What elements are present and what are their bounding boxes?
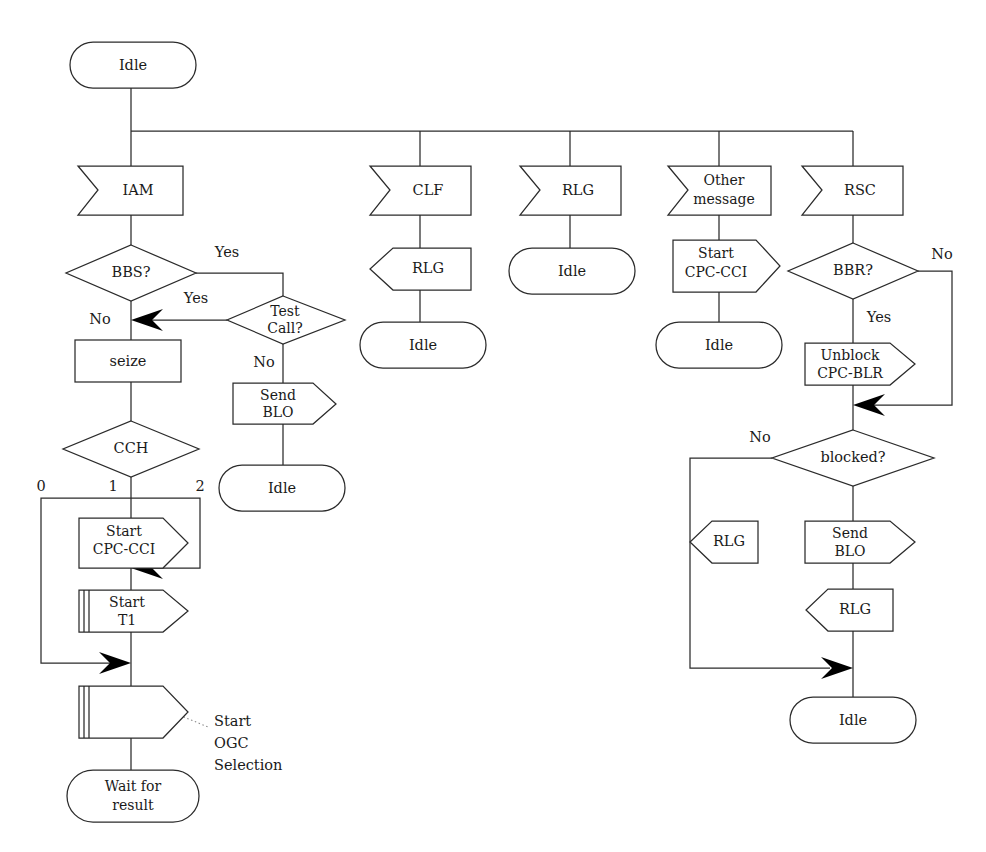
node-start-idle-label: Idle [119,57,147,73]
node-iam-label: IAM [122,182,153,198]
node-wait-line1: Wait for [105,778,162,794]
node-unblock-line1: Unblock [820,347,880,363]
node-iam[interactable]: IAM [78,166,183,215]
node-send-blo-left[interactable]: Send BLO [233,383,336,424]
node-idle-blo-left-label: Idle [268,480,296,496]
node-rlg-clf-label: RLG [412,260,444,276]
node-unblock-cpc-blr[interactable]: Unblock CPC-BLR [805,343,915,385]
flowchart-canvas: Idle IAM BBS? Yes No Test Call? Yes No s… [0,0,986,852]
edge-label-testcall-no: No [253,354,274,370]
node-blocked-label: blocked? [820,449,885,465]
node-clf[interactable]: CLF [370,166,471,215]
node-start-t1-line2: T1 [118,612,136,628]
node-rlg-notblocked-label: RLG [713,533,745,549]
node-bbr-decision[interactable]: BBR? [788,243,918,299]
edge-label-cch-2: 2 [195,478,204,494]
node-idle-clf[interactable]: Idle [360,322,486,368]
node-wait-for-result[interactable]: Wait for result [67,770,199,822]
node-rlg-blocked[interactable]: RLG [806,589,893,631]
annotation-ogc-note: Start OGC Selection [214,713,282,773]
node-start-cpc-cci-cch-line2: CPC-CCI [93,541,156,557]
edge-label-testcall-yes: Yes [183,290,208,306]
node-start-t1[interactable]: Start T1 [79,590,188,632]
node-idle-rlg[interactable]: Idle [509,248,635,294]
node-idle-clf-label: Idle [409,337,437,353]
node-ogc-selection[interactable] [79,686,188,738]
node-idle-rsc[interactable]: Idle [790,697,916,743]
node-rlg-not-blocked[interactable]: RLG [690,521,758,563]
node-other-message-line2: message [693,191,755,207]
node-start-cpc-cci-om-line1: Start [698,245,734,261]
node-rlg-clf[interactable]: RLG [370,248,471,290]
node-send-blo-left-line1: Send [260,387,296,403]
node-rsc[interactable]: RSC [802,166,903,215]
node-rlg-top[interactable]: RLG [520,166,621,215]
annotation-ogc-line2: OGC [214,735,249,751]
flowchart-svg: Idle IAM BBS? Yes No Test Call? Yes No s… [0,0,986,852]
edge-label-cch-1: 1 [108,478,117,494]
node-unblock-line2: CPC-BLR [817,365,883,381]
node-rsc-label: RSC [844,182,876,198]
edge-label-blocked-no: No [749,429,770,445]
node-send-blo-right[interactable]: Send BLO [805,521,915,563]
annotation-ogc-line3: Selection [214,757,282,773]
edge-label-bbs-yes: Yes [214,244,239,260]
node-rlg-top-label: RLG [562,182,594,198]
node-rlg-blocked-label: RLG [839,601,871,617]
node-bbs-decision[interactable]: BBS? [66,245,196,301]
node-send-blo-right-line1: Send [832,525,868,541]
node-other-message-line1: Other [703,172,744,188]
node-cch-label: CCH [114,440,149,456]
node-testcall-line1: Test [270,303,300,319]
node-idle-other-message[interactable]: Idle [656,322,782,368]
node-start-cpc-cci-om-line2: CPC-CCI [685,264,748,280]
node-send-blo-left-line2: BLO [262,404,293,420]
node-start-cpc-cci-cch-line1: Start [106,523,142,539]
node-blocked-decision[interactable]: blocked? [772,430,934,486]
node-seize-label: seize [110,353,147,369]
node-bbr-label: BBR? [833,262,873,278]
node-testcall-decision[interactable]: Test Call? [227,296,345,344]
edge-label-bbs-no: No [89,311,110,327]
edge-label-bbr-no: No [931,246,952,262]
annotation-ogc-line1: Start [214,713,251,729]
node-seize[interactable]: seize [75,340,181,382]
node-other-message[interactable]: Other message [668,166,771,215]
node-idle-blo-left[interactable]: Idle [219,465,345,511]
node-clf-label: CLF [413,182,444,198]
node-start-cpc-cci-cch[interactable]: Start CPC-CCI [79,518,188,568]
node-start-idle[interactable]: Idle [70,42,196,88]
node-testcall-line2: Call? [267,320,303,336]
node-start-cpc-cci-other[interactable]: Start CPC-CCI [673,240,780,292]
edge-label-cch-0: 0 [36,478,45,494]
node-start-t1-line1: Start [109,594,145,610]
node-idle-om-label: Idle [705,337,733,353]
node-wait-line2: result [112,797,154,813]
conn-bbs-yes-to-testcall [196,273,283,296]
edge-label-bbr-yes: Yes [866,309,891,325]
node-cch-decision[interactable]: CCH [63,421,199,477]
node-bbs-label: BBS? [111,264,150,280]
node-idle-rlg-label: Idle [558,263,586,279]
node-send-blo-right-line2: BLO [834,543,865,559]
node-idle-rsc-label: Idle [839,712,867,728]
